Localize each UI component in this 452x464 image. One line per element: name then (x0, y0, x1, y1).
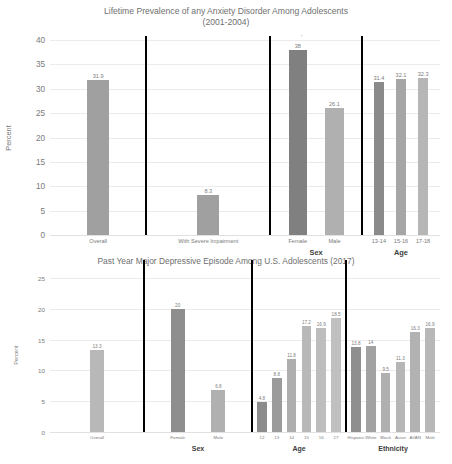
bar: 11.3Asian (396, 362, 406, 432)
bar: 13.3Overall (90, 350, 104, 432)
x-axis-tick-label: 17-18 (416, 238, 430, 244)
bar: 32.115-16 (396, 79, 406, 235)
x-axis-tick-label: Male (214, 435, 224, 440)
chart1-title: Lifetime Prevalence of any Anxiety Disor… (0, 6, 452, 27)
group-label: Ethnicity (378, 445, 408, 452)
y-axis-tick-label: 20 (38, 305, 50, 312)
gridline (50, 40, 440, 41)
bar-value-label: 20 (175, 303, 180, 308)
chart1-title-line1: Lifetime Prevalence of any Anxiety Disor… (0, 6, 452, 17)
bar: 17.215 (302, 326, 312, 432)
bar-value-label: 26.1 (329, 101, 340, 107)
stray-mark: ⁃ (300, 32, 303, 39)
x-axis-tick-label: With Severe Impairment (178, 238, 238, 244)
gridline (50, 432, 440, 433)
bar-value-label: 11.3 (396, 356, 405, 361)
x-axis-tick-label: 12 (260, 435, 265, 440)
x-axis-tick-label: White (365, 435, 376, 440)
group-divider (143, 260, 145, 432)
bar: 16.3AI/AN (410, 332, 420, 432)
bar-value-label: 4.8 (259, 396, 265, 401)
x-axis-tick-label: AI/AN (409, 435, 420, 440)
x-axis-tick-label: 17 (334, 435, 339, 440)
bar: 26.1Male (325, 108, 343, 235)
y-axis-tick-label: 15 (38, 336, 50, 343)
bar: 14White (366, 346, 376, 432)
bar-value-label: 9.5 (382, 367, 388, 372)
chart1-y-axis-label: Percent (4, 125, 13, 150)
x-axis-tick-label: Female (288, 238, 307, 244)
y-axis-tick-label: 0 (40, 231, 50, 240)
anxiety-prevalence-chart: Lifetime Prevalence of any Anxiety Disor… (0, 0, 452, 252)
bar: 16.916 (316, 328, 326, 432)
bar: 31.9Overall (87, 80, 109, 236)
x-axis-tick-label: Female (170, 435, 185, 440)
bar: 11.814 (287, 359, 297, 432)
bar: 18.517 (331, 318, 341, 432)
y-axis-tick-label: 0 (42, 429, 50, 436)
chart1-title-line2: (2001-2004) (0, 17, 452, 28)
group-divider (145, 36, 147, 235)
gridline (50, 340, 440, 341)
x-axis-tick-label: 13 (274, 435, 279, 440)
y-axis-tick-label: 10 (36, 182, 50, 191)
depression-episode-chart: Past Year Major Depressive Episode Among… (0, 252, 452, 464)
chart2-plot-area: Percent 051015202513.3Overall20Female6.8… (50, 278, 440, 432)
y-axis-tick-label: 30 (36, 84, 50, 93)
y-axis-tick-label: 15 (36, 157, 50, 166)
y-axis-tick-label: 5 (42, 398, 50, 405)
y-axis-tick-label: 25 (38, 275, 50, 282)
group-divider (361, 36, 363, 235)
y-axis-tick-label: 20 (36, 133, 50, 142)
gridline (50, 278, 440, 279)
bar: 13.8Hispanic (351, 347, 361, 432)
x-axis-tick-label: Black (380, 435, 391, 440)
bar-value-label: 11.8 (287, 353, 296, 358)
bar-value-label: 16.9 (317, 322, 326, 327)
bar-value-label: 16.3 (411, 326, 420, 331)
gridline (50, 64, 440, 65)
bar-value-label: 32.3 (418, 71, 429, 77)
bar-value-label: 6.8 (215, 384, 221, 389)
bar-value-label: 16.9 (426, 322, 435, 327)
bar: 6.8Male (211, 390, 225, 432)
x-axis-tick-label: 16 (319, 435, 324, 440)
bar: 31.413-14 (374, 82, 384, 235)
bar: 8.3With Severe Impairment (197, 195, 219, 235)
y-axis-tick-label: 10 (38, 367, 50, 374)
chart2-title-line1: Past Year Major Depressive Episode Among… (0, 256, 452, 267)
x-axis-tick-label: Asian (395, 435, 406, 440)
bar-value-label: 8.8 (274, 372, 280, 377)
bar: 16.9Multi (425, 328, 435, 432)
chart2-title: Past Year Major Depressive Episode Among… (0, 256, 452, 267)
group-label: Age (292, 445, 305, 452)
x-axis-tick-label: Overall (89, 238, 107, 244)
bar-value-label: 17.2 (302, 320, 311, 325)
two-chart-figure: Lifetime Prevalence of any Anxiety Disor… (0, 0, 452, 464)
x-axis-tick-label: 15-16 (394, 238, 408, 244)
bar-value-label: 32.1 (396, 72, 407, 78)
y-axis-tick-label: 35 (36, 60, 50, 69)
y-axis-tick-label: 40 (36, 36, 50, 45)
gridline (50, 235, 440, 236)
x-axis-tick-label: 13-14 (372, 238, 386, 244)
x-axis-tick-label: Male (328, 238, 340, 244)
bar-value-label: 31.4 (373, 75, 384, 81)
gridline (50, 309, 440, 310)
bar-value-label: 14 (368, 340, 373, 345)
x-axis-tick-label: Overall (90, 435, 104, 440)
x-axis-tick-label: 15 (304, 435, 309, 440)
bar: 38Female (289, 50, 307, 235)
bar: 9.5Black (381, 373, 391, 432)
group-divider (345, 260, 347, 432)
bar-value-label: 18.5 (332, 312, 341, 317)
bar: 32.317-18 (418, 78, 428, 235)
bar: 4.812 (257, 402, 267, 432)
group-divider (269, 36, 271, 235)
x-axis-tick-label: 14 (289, 435, 294, 440)
bar-value-label: 13.3 (93, 344, 102, 349)
y-axis-tick-label: 5 (40, 206, 50, 215)
bar: 8.813 (272, 378, 282, 432)
group-label: Sex (192, 445, 204, 452)
bar: 20Female (171, 309, 185, 432)
